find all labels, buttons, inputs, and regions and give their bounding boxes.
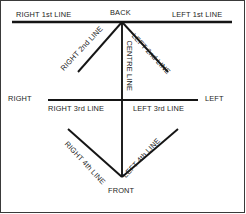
label-left-1st-line: LEFT 1st LINE xyxy=(172,10,222,19)
label-left: LEFT xyxy=(205,94,224,103)
diagram-canvas: RIGHT 1st LINE LEFT 1st LINE BACK RIGHT … xyxy=(0,0,246,214)
label-back: BACK xyxy=(110,8,131,17)
label-right: RIGHT xyxy=(8,94,32,103)
label-right-3rd-line: RIGHT 3rd LINE xyxy=(48,104,104,113)
label-front: FRONT xyxy=(108,186,134,195)
label-right-1st-line: RIGHT 1st LINE xyxy=(16,10,71,19)
label-centre-line: CENTRE LINE xyxy=(125,41,134,92)
diagram-lines xyxy=(0,0,246,214)
label-left-3rd-line: LEFT 3rd LINE xyxy=(133,104,184,113)
